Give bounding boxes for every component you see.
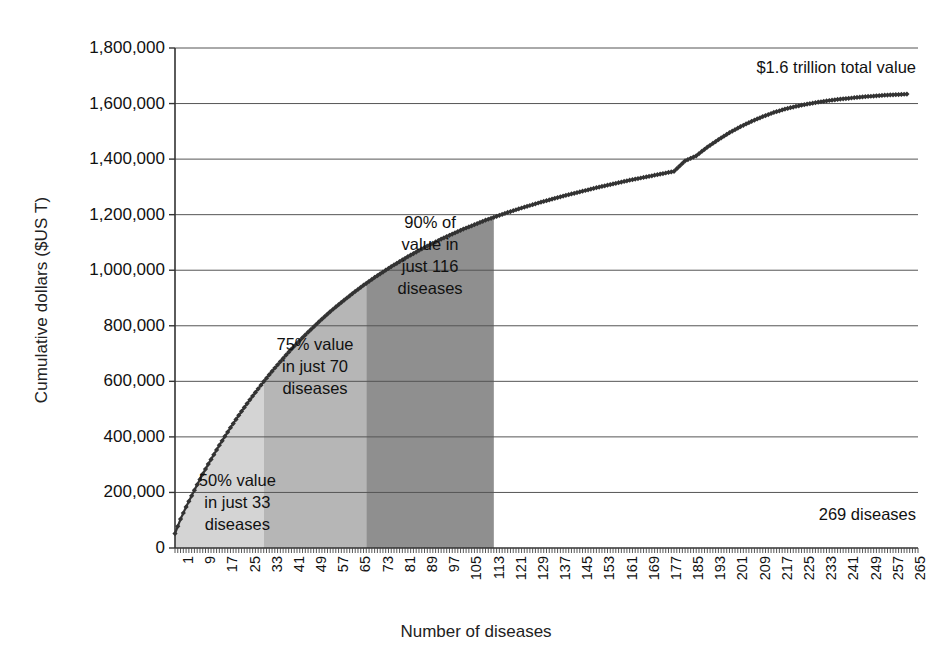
annotation-total-value: $1.6 trillion total value xyxy=(560,57,916,79)
data-point-marker xyxy=(904,92,909,97)
annotation-90-percent: 90% of value in just 116 diseases xyxy=(355,212,505,300)
annotation-50-percent: 50% value in just 33 diseases xyxy=(162,470,312,536)
annotation-75-percent: 75% value in just 70 diseases xyxy=(240,334,390,400)
annotation-disease-count: 269 diseases xyxy=(620,504,916,526)
chart-container: Cumulative dollars ($US T) Number of dis… xyxy=(0,0,952,660)
plot-area xyxy=(0,0,952,660)
